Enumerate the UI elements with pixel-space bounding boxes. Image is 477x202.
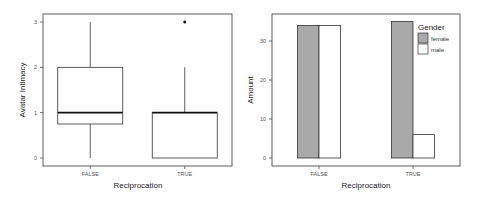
outlier-point bbox=[183, 21, 186, 24]
y-tick-label: 1 bbox=[34, 110, 37, 116]
boxplot-panel: 0123 FALSETRUE Reciprocation Avatar Inti… bbox=[18, 14, 232, 190]
legend-title: Gender bbox=[418, 23, 445, 32]
barchart-y-ticks: 0102030 bbox=[260, 38, 272, 161]
box-true bbox=[152, 113, 217, 158]
barchart-x-label: Reciprocation bbox=[342, 181, 391, 190]
bar-female-false bbox=[298, 25, 320, 158]
y-tick-label: 30 bbox=[260, 38, 266, 44]
bar-female-true bbox=[392, 22, 414, 159]
bar-male-true bbox=[413, 135, 435, 158]
box-false bbox=[58, 67, 123, 124]
barchart-x-ticks: FALSETRUE bbox=[310, 166, 420, 177]
barchart-panel: 0102030 FALSETRUE Gender female male Rec… bbox=[246, 14, 460, 190]
legend-swatch-male bbox=[418, 44, 428, 54]
y-tick-label: 0 bbox=[263, 155, 266, 161]
bar-male-false bbox=[319, 25, 341, 158]
boxplot-y-ticks: 0123 bbox=[34, 19, 43, 161]
legend-label-female: female bbox=[431, 36, 450, 42]
x-tick-label: TRUE bbox=[177, 171, 192, 177]
y-tick-label: 0 bbox=[34, 155, 37, 161]
figure: 0123 FALSETRUE Reciprocation Avatar Inti… bbox=[0, 0, 477, 202]
y-tick-label: 20 bbox=[260, 77, 266, 83]
barchart-y-label: Amount bbox=[246, 75, 255, 103]
x-tick-label: FALSE bbox=[82, 171, 99, 177]
boxplot-x-ticks: FALSETRUE bbox=[82, 166, 193, 177]
y-tick-label: 10 bbox=[260, 116, 266, 122]
legend-swatch-female bbox=[418, 33, 428, 43]
y-tick-label: 2 bbox=[34, 64, 37, 70]
legend-label-male: male bbox=[431, 47, 445, 53]
x-tick-label: FALSE bbox=[310, 171, 327, 177]
y-tick-label: 3 bbox=[34, 19, 37, 25]
x-tick-label: TRUE bbox=[406, 171, 421, 177]
boxplot-x-label: Reciprocation bbox=[114, 181, 163, 190]
boxplot-y-label: Avatar Intimacy bbox=[18, 63, 27, 118]
